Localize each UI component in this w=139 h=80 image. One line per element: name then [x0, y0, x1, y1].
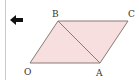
- vertex-label-o: O: [24, 67, 31, 77]
- vertex-label-b: B: [52, 9, 59, 19]
- parallelogram-diagram: B C O A: [0, 0, 139, 80]
- vertex-label-a: A: [95, 68, 103, 78]
- vertex-label-c: C: [128, 9, 135, 19]
